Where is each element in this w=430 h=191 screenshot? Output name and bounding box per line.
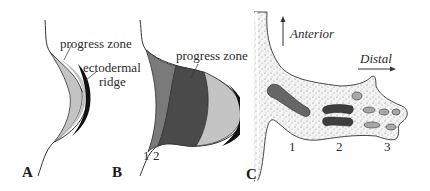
bone-zeugopod-1 bbox=[323, 105, 354, 114]
panel-b-letter: B bbox=[112, 165, 122, 180]
panel-b-segment-2-label: 2 bbox=[153, 149, 160, 162]
panel-c-letter: C bbox=[246, 167, 257, 182]
limb-development-figure: A progress zone ectodermal ridge B progr… bbox=[0, 0, 430, 191]
panel-a-letter: A bbox=[22, 165, 33, 180]
bone-zeugopod-2 bbox=[323, 117, 353, 126]
panel-a-ectodermal-label: ectodermal bbox=[83, 61, 141, 74]
panel-b-segment-1-label: 1 bbox=[143, 149, 150, 162]
region-2-label: 2 bbox=[336, 140, 343, 153]
panel-b-progress-zone-label: progress zone bbox=[176, 49, 248, 62]
region-3-label: 3 bbox=[384, 140, 391, 153]
region-1-label: 1 bbox=[289, 140, 296, 153]
distal-label: Distal bbox=[360, 52, 392, 65]
figure-graphics bbox=[0, 0, 430, 191]
panel-a-ridge-label: ridge bbox=[99, 75, 126, 88]
anterior-label: Anterior bbox=[290, 27, 334, 40]
panel-a-progress-zone-label: progress zone bbox=[60, 37, 132, 50]
